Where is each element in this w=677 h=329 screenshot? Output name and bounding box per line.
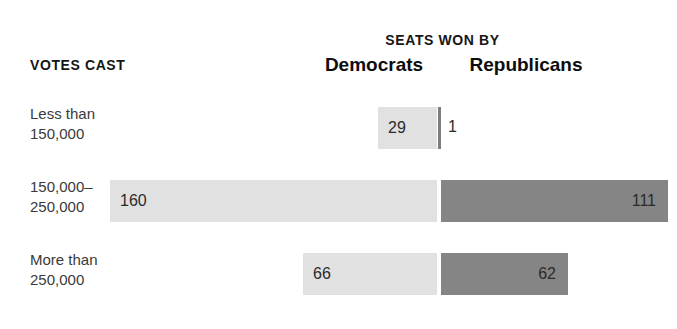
bar-democrats-row-3: 66 bbox=[303, 253, 437, 295]
row-label-more-than-250000: More than 250,000 bbox=[30, 250, 98, 290]
legend-label-republicans: Republicans bbox=[466, 54, 586, 76]
legend-label-democrats: Democrats bbox=[318, 54, 430, 76]
bar-value-republicans-row-1: 1 bbox=[448, 118, 457, 136]
bar-value-democrats-row-1: 29 bbox=[388, 119, 406, 137]
diverging-bar-chart: SEATS WON BY VOTES CAST Democrats Republ… bbox=[0, 0, 677, 329]
bar-value-republicans-row-3: 62 bbox=[538, 265, 556, 283]
bar-value-republicans-row-2: 111 bbox=[632, 192, 656, 210]
bar-democrats-row-2: 160 bbox=[110, 180, 437, 222]
bar-value-democrats-row-2: 160 bbox=[120, 192, 147, 210]
bar-democrats-row-1: 29 bbox=[378, 107, 437, 149]
bar-republicans-row-3: 62 bbox=[441, 253, 568, 295]
column-header-votes-cast: VOTES CAST bbox=[30, 57, 125, 73]
chart-title-seats-won-by: SEATS WON BY bbox=[310, 32, 575, 48]
bar-republicans-row-2: 111 bbox=[441, 180, 668, 222]
row-label-less-than-150000: Less than 150,000 bbox=[30, 104, 95, 144]
bar-value-democrats-row-3: 66 bbox=[313, 265, 331, 283]
row-label-150000-250000: 150,000– 250,000 bbox=[30, 177, 93, 217]
center-divider-row-1 bbox=[438, 107, 441, 149]
